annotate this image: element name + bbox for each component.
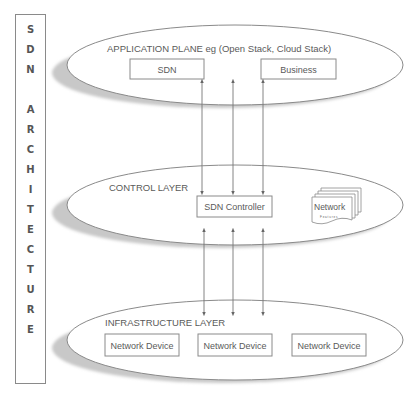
infrastructure-layer: INFRASTRUCTURE LAYER Network Device Netw… [52,300,403,383]
application-plane: APPLICATION PLANE eg (Open Stack, Cloud … [52,25,403,108]
network-features-subtitle: Features [320,215,338,219]
control-layer: CONTROL LAYER SDN Controller Network Fea… [52,165,403,248]
network-device-label-3: Network Device [297,341,360,351]
business-app-label: Business [280,65,317,75]
sdn-controller-label: SDN Controller [204,202,265,212]
sdn-app-label: SDN [157,65,176,75]
application-plane-title: APPLICATION PLANE eg (Open Stack, Cloud … [107,43,331,54]
network-features-title: Network [314,202,346,212]
network-device-label-2: Network Device [203,341,266,351]
network-device-label-1: Network Device [110,341,173,351]
application-plane-ellipse [67,25,403,105]
sdn-architecture-diagram: APPLICATION PLANE eg (Open Stack, Cloud … [0,0,416,395]
control-layer-title: CONTROL LAYER [109,182,188,193]
infrastructure-layer-title: INFRASTRUCTURE LAYER [105,317,225,328]
